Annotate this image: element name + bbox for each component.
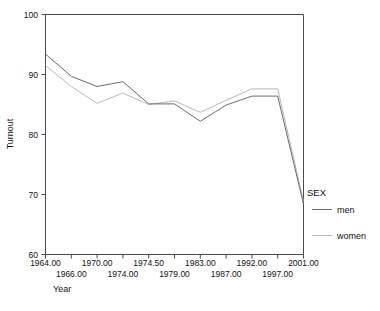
legend-label-men: men: [337, 205, 355, 215]
series-line-women: [46, 66, 304, 202]
y-tick-label-100: 100: [24, 10, 38, 20]
x-tick-label-1997.00: 1997.00: [262, 269, 293, 279]
y-axis-tick-labels: 60 70 80 90 100: [24, 10, 38, 260]
chart-canvas: 60 70 80 90 100 1964.001966.001970.00197…: [0, 0, 380, 311]
x-tick-label-1966.00: 1966.00: [56, 269, 87, 279]
series-group: [46, 54, 304, 204]
legend-label-women: women: [336, 231, 366, 241]
turnout-by-sex-line-chart: 60 70 80 90 100 1964.001966.001970.00197…: [0, 0, 380, 311]
plot-frame: [46, 15, 304, 255]
legend-title: SEX: [307, 187, 327, 198]
x-axis-title: Year: [53, 284, 71, 294]
x-tick-label-1974.00: 1974.00: [108, 269, 139, 279]
x-axis-tick-labels: 1964.001966.001970.001974.001974.501979.…: [30, 258, 319, 279]
x-tick-label-2001.00: 2001.00: [288, 258, 319, 268]
x-tick-label-1974.50: 1974.50: [133, 258, 164, 268]
y-tick-label-90: 90: [29, 70, 39, 80]
x-tick-label-1970.00: 1970.00: [82, 258, 113, 268]
x-tick-label-1964.00: 1964.00: [30, 258, 61, 268]
series-line-men: [46, 54, 304, 204]
x-tick-label-1979.00: 1979.00: [159, 269, 190, 279]
x-tick-label-1983.00: 1983.00: [185, 258, 216, 268]
x-tick-label-1987.00: 1987.00: [211, 269, 242, 279]
legend: SEX men women: [307, 187, 366, 241]
y-axis-title: Turnout: [5, 118, 15, 149]
y-axis-ticks: [42, 15, 46, 255]
y-tick-label-70: 70: [29, 190, 39, 200]
x-tick-label-1992.00: 1992.00: [237, 258, 268, 268]
y-tick-label-80: 80: [29, 130, 39, 140]
